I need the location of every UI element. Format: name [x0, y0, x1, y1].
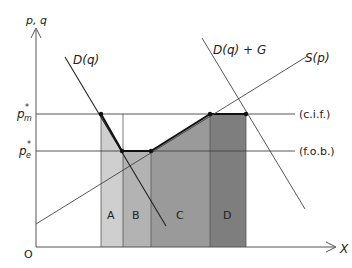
x-axis-label: X: [339, 242, 349, 256]
region-d-label: D: [223, 209, 231, 222]
y-axis-label: p, q: [25, 14, 47, 27]
fob-annotation: (f.o.b.): [299, 145, 335, 158]
cif-annotation: (c.i.f.): [299, 108, 330, 121]
origin-label: O: [24, 248, 33, 261]
svg-text:*: *: [27, 140, 31, 149]
region-d-fill: [210, 114, 246, 247]
trade-diagram: p, q X O p * m p * e (c.i.f.) (f.o.b.) D…: [0, 0, 352, 268]
svg-text:m: m: [24, 114, 32, 123]
region-a-label: A: [107, 209, 115, 222]
svg-text:e: e: [26, 151, 31, 160]
demand-plus-g-label: D(q) + G: [213, 43, 266, 57]
demand-curve-label: D(q): [73, 53, 99, 67]
region-b-label: B: [132, 209, 140, 222]
pm-label: p * m: [16, 103, 32, 123]
pe-label: p * e: [18, 140, 31, 160]
svg-text:*: *: [25, 103, 29, 112]
supply-curve-label: S(p): [305, 51, 330, 65]
region-c-fill: [151, 114, 210, 247]
region-c-label: C: [176, 209, 184, 222]
region-b-fill: [123, 151, 151, 247]
